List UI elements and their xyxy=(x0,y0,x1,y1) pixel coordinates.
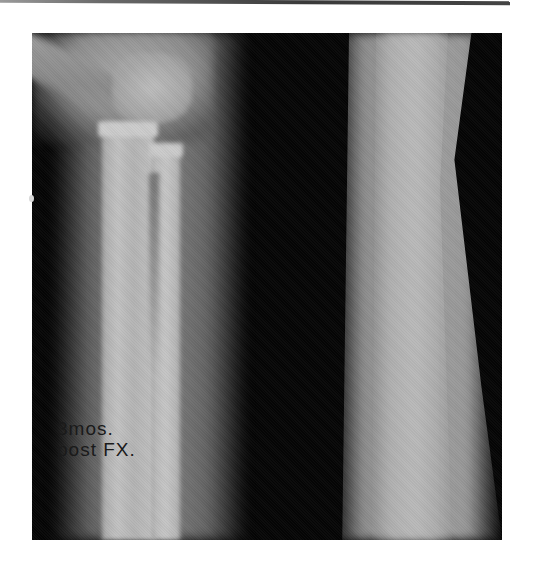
film-grain xyxy=(32,33,502,540)
top-rule-divider xyxy=(0,0,510,5)
film-mark xyxy=(29,195,34,202)
xray-annotation: 3mos. post FX. xyxy=(57,418,136,460)
annotation-line-2: post FX. xyxy=(57,439,136,460)
xray-image xyxy=(32,33,502,540)
annotation-line-1: 3mos. xyxy=(57,418,136,439)
